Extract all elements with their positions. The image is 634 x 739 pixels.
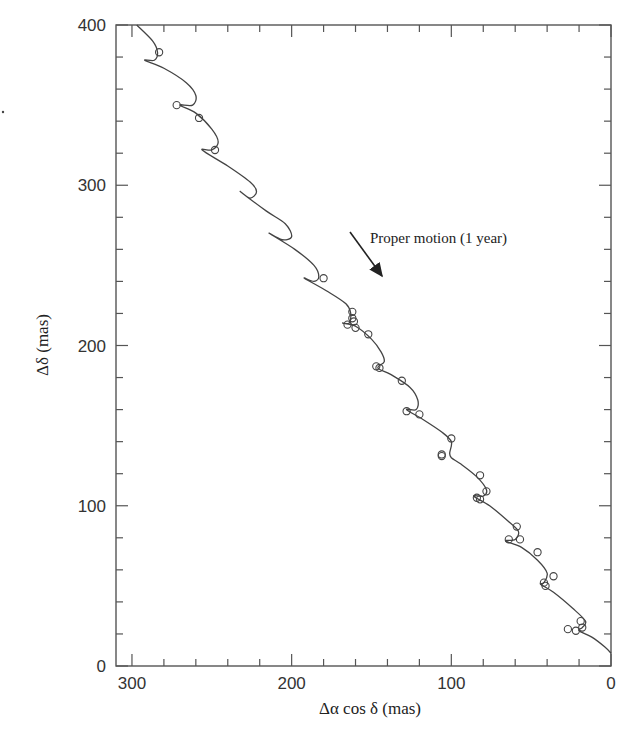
observation-points (156, 49, 586, 635)
observation-marker (476, 472, 483, 479)
x-tick-label: 300 (118, 674, 146, 693)
plot-border (116, 25, 611, 666)
axis-ticks (116, 25, 611, 666)
proper-motion-label: Proper motion (1 year) (370, 230, 507, 247)
proper-motion-annotation: Proper motion (1 year) (350, 230, 507, 276)
fit-curve (137, 25, 611, 653)
x-tick-label: 100 (437, 674, 465, 693)
axis-tick-labels: 30020010000100200300400 (78, 16, 616, 693)
y-tick-label: 100 (78, 497, 106, 516)
observation-marker (550, 573, 557, 580)
observation-marker (156, 49, 163, 56)
x-tick-label: 200 (277, 674, 305, 693)
observation-marker (516, 536, 523, 543)
x-tick-label: 0 (606, 674, 615, 693)
observation-marker (534, 549, 541, 556)
plot-frame (116, 25, 611, 666)
y-tick-label: 400 (78, 16, 106, 35)
observation-marker (173, 102, 180, 109)
y-tick-label: 0 (97, 657, 106, 676)
observation-marker (564, 626, 571, 633)
observation-marker (320, 275, 327, 282)
y-tick-label: 300 (78, 176, 106, 195)
astrometry-chart: 30020010000100200300400 Proper motion (1… (0, 0, 634, 739)
stray-dot (2, 111, 4, 113)
x-axis-title: Δα cos δ (mas) (319, 699, 421, 718)
y-axis-title: Δδ (mas) (33, 314, 52, 376)
y-tick-label: 200 (78, 337, 106, 356)
